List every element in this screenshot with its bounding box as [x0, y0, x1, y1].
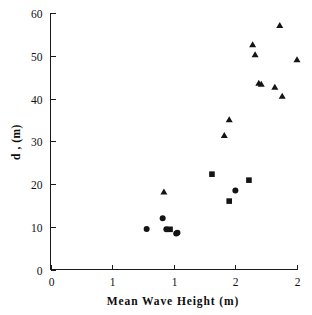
plot-background — [0, 0, 312, 315]
x-tick-label: 2 — [233, 276, 239, 288]
x-tick-label: 2 — [295, 276, 301, 288]
data-point-circle — [144, 226, 150, 232]
x-tick-label: 0 — [49, 276, 55, 288]
data-point-square — [209, 171, 215, 177]
y-tick-label: 30 — [31, 136, 43, 148]
data-point-square — [246, 177, 252, 183]
scatter-plot-figure: 01122 0102030405060 Mean Wave Height (m)… — [0, 0, 312, 315]
data-point-circle — [174, 230, 180, 236]
x-axis-title: Mean Wave Height (m) — [107, 295, 239, 308]
data-point-circle — [160, 215, 166, 221]
y-tick-label: 0 — [37, 265, 43, 277]
plot-canvas: 01122 0102030405060 Mean Wave Height (m)… — [0, 0, 312, 315]
y-tick-label: 40 — [31, 94, 43, 106]
data-point-square — [226, 198, 232, 204]
y-tick-label: 10 — [31, 222, 43, 234]
y-tick-label: 50 — [31, 51, 43, 63]
data-point-circle — [232, 187, 238, 193]
x-tick-label: 1 — [110, 276, 116, 288]
x-tick-label: 1 — [172, 276, 178, 288]
y-tick-label: 20 — [31, 179, 43, 191]
y-tick-label: 60 — [31, 8, 43, 20]
y-axis-title: d , (m) — [10, 124, 23, 160]
data-point-square — [167, 227, 173, 233]
